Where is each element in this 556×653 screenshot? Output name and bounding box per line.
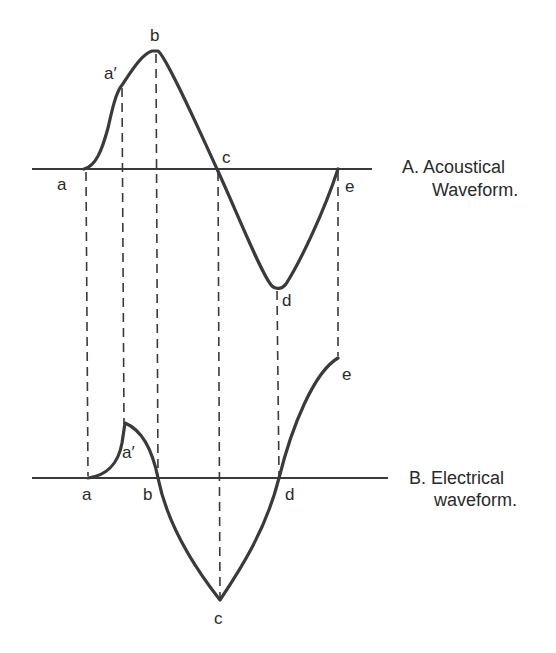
electrical-label-d: d — [285, 485, 294, 504]
electrical-caption-line2: waveform. — [433, 490, 517, 510]
acoustical-label-a: a — [57, 175, 67, 194]
electrical-label-a: a — [82, 485, 92, 504]
electrical-label-b: b — [143, 485, 152, 504]
electrical-caption-line1: B. Electrical — [409, 468, 504, 488]
acoustical-label-b: b — [150, 26, 159, 45]
projection-b — [156, 54, 158, 476]
acoustical-caption-line1: A. Acoustical — [402, 157, 505, 177]
electrical-label-a-prime: a′ — [122, 443, 135, 462]
electrical-label-e: e — [342, 365, 351, 384]
projection-a — [86, 172, 88, 476]
electrical-panel: a a′ b c d e B. Electrical waveform. — [32, 358, 517, 628]
projection-c — [218, 172, 220, 598]
acoustical-label-c: c — [222, 148, 231, 167]
acoustical-panel: a a′ b c d e A. Acoustical Waveform. — [32, 26, 518, 310]
acoustical-caption-line2: Waveform. — [432, 180, 518, 200]
acoustical-label-d: d — [282, 291, 291, 310]
acoustical-label-a-prime: a′ — [104, 64, 117, 83]
acoustical-label-e: e — [345, 177, 354, 196]
electrical-label-c: c — [214, 609, 223, 628]
projection-lines — [86, 54, 338, 598]
projection-a-prime — [122, 88, 124, 424]
projection-d — [277, 291, 279, 476]
waveform-diagram: a a′ b c d e A. Acoustical Waveform. a a… — [0, 0, 556, 653]
